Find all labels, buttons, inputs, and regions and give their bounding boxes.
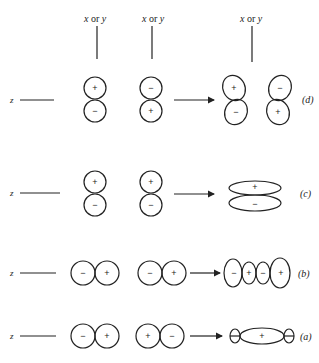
sign-label: − [252, 199, 257, 209]
row-label-c: (c) [300, 188, 312, 200]
sign-label: − [169, 331, 174, 341]
sign-label: − [233, 107, 238, 117]
sign-label: − [260, 268, 265, 278]
axis-label-group-1: x or y [83, 13, 107, 59]
row-label-d: (d) [302, 94, 314, 106]
row-a: z − + + − + (a) [9, 324, 312, 348]
sign-label: + [246, 268, 251, 278]
row-c: z + − + − + − (c) [9, 171, 312, 216]
sign-label: − [231, 268, 236, 278]
row-b: z − + − + − + − + (b) [9, 258, 310, 288]
sign-label: − [148, 83, 153, 93]
z-axis-label: z [9, 188, 14, 198]
sign-label: − [148, 200, 153, 210]
sign-label: + [171, 268, 176, 278]
row-d: z + − − + + − − + (d) [9, 72, 314, 129]
z-axis-label: z [9, 95, 14, 105]
sign-label: + [148, 106, 153, 116]
sign-label: − [80, 268, 85, 278]
sign-label: + [252, 182, 257, 192]
sign-label: − [92, 106, 97, 116]
axis-label-x-or-y-3: x or y [239, 13, 263, 24]
sign-label: − [80, 331, 85, 341]
sign-label: − [277, 83, 282, 93]
sign-label: + [104, 268, 109, 278]
z-axis-label: z [9, 331, 14, 341]
sign-label: + [145, 331, 150, 341]
sign-label: + [148, 177, 153, 187]
axis-label-group-2: x or y [141, 13, 165, 59]
sign-label: + [231, 83, 236, 93]
sign-label: + [259, 331, 264, 341]
orbital-combination-diagram: x or y x or y x or y z + − − + + − − + (… [0, 0, 319, 363]
sign-label: + [275, 107, 280, 117]
sign-label: − [92, 200, 97, 210]
axis-label-x-or-y-2: x or y [141, 13, 165, 24]
row-label-b: (b) [298, 268, 310, 280]
sign-label: + [278, 268, 283, 278]
axis-label-x-or-y-1: x or y [83, 13, 107, 24]
sign-label: − [147, 268, 152, 278]
z-axis-label: z [9, 268, 14, 278]
sign-label: + [92, 83, 97, 93]
row-label-a: (a) [300, 331, 312, 343]
sign-label: + [104, 331, 109, 341]
sign-label: + [92, 177, 97, 187]
axis-label-group-3: x or y [239, 13, 263, 62]
